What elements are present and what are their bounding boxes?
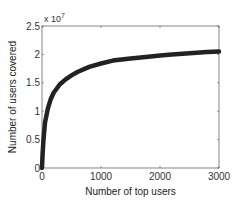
x-tick-label: 3000 bbox=[208, 171, 231, 182]
axes-frame bbox=[42, 26, 219, 168]
y-tick-label: 0 bbox=[34, 163, 40, 174]
y-tick-label: 1 bbox=[34, 106, 40, 117]
x-axis-label: Number of top users bbox=[85, 186, 176, 197]
line-chart: 010002000300000.511.522.5 x 107 Number o… bbox=[0, 0, 241, 206]
x-tick-label: 2000 bbox=[149, 171, 172, 182]
y-axis-label: Number of users covered bbox=[7, 41, 18, 153]
y-tick-label: 1.5 bbox=[26, 77, 40, 88]
y-tick-label: 2 bbox=[34, 49, 40, 60]
x-tick-label: 0 bbox=[39, 171, 45, 182]
y-multiplier-label: x 107 bbox=[44, 12, 65, 24]
plot-area bbox=[42, 26, 219, 168]
x-tick-label: 1000 bbox=[90, 171, 113, 182]
y-tick-label: 2.5 bbox=[26, 21, 40, 32]
y-tick-label: 0.5 bbox=[26, 134, 40, 145]
